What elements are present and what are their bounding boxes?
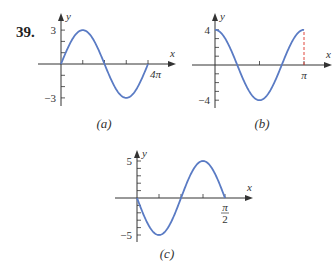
y-axis-arrow-icon xyxy=(58,13,64,21)
y-axis-arrow-icon xyxy=(212,13,218,21)
x-tick-label-denominator: 2 xyxy=(222,213,228,225)
x-axis-label: x xyxy=(169,47,175,59)
graph-c: xy5−5π2(c) xyxy=(115,147,253,261)
plots-canvas: xy3−34π(a) xy4−4π(b) xy5−5π2(c) xyxy=(0,0,335,262)
x-axis-label: x xyxy=(246,181,252,193)
y-tick-label: 3 xyxy=(51,24,57,36)
caption-b: (b) xyxy=(254,116,269,131)
y-axis-arrow-icon xyxy=(134,150,140,158)
y-tick-label: −5 xyxy=(120,229,132,241)
y-axis-label: y xyxy=(65,10,71,22)
x-axis-label: x xyxy=(325,48,331,60)
x-tick-label: π xyxy=(301,69,307,81)
y-tick-label: 5 xyxy=(127,155,133,167)
x-axis-arrow-icon xyxy=(168,61,176,67)
caption-a: (a) xyxy=(96,116,111,131)
y-axis-label: y xyxy=(141,147,147,159)
caption-c: (c) xyxy=(160,246,174,261)
y-tick-label: −3 xyxy=(44,92,56,104)
y-tick-label: −4 xyxy=(198,94,210,106)
figure: 39. xy3−34π(a) xy4−4π(b) xy5−5π2(c) xyxy=(0,0,335,262)
x-axis-arrow-icon xyxy=(324,62,332,68)
graph-b: xy4−4π(b) xyxy=(192,10,332,131)
graph-a: xy3−34π(a) xyxy=(38,10,176,131)
y-axis-label: y xyxy=(219,10,225,22)
x-tick-label-numerator: π xyxy=(222,201,228,213)
x-tick-label: 4π xyxy=(150,68,162,80)
x-axis-arrow-icon xyxy=(245,195,253,201)
y-tick-label: 4 xyxy=(205,24,211,36)
